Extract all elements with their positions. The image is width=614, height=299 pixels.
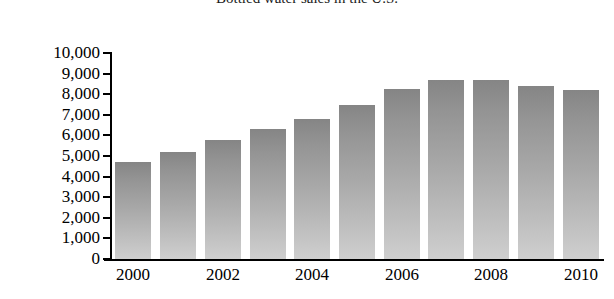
y-axis-tick-mark: [103, 196, 112, 198]
x-axis-tick-label: 2006: [367, 266, 437, 284]
bar-2006: [384, 89, 420, 259]
bar-2004: [294, 119, 330, 259]
y-axis-tick-label: 10,000: [16, 44, 100, 61]
y-axis-tick-mark: [103, 114, 112, 116]
x-axis-tick-label: 2002: [188, 266, 258, 284]
bar-2010: [563, 90, 599, 259]
x-axis-tick-label: 2010: [546, 266, 614, 284]
bar-2000: [115, 162, 151, 259]
y-axis-tick-mark: [103, 176, 112, 178]
x-axis-tick-label: 2004: [277, 266, 347, 284]
y-axis-tick-labels: 10,0009,0008,0007,0006,0005,0004,0003,00…: [12, 0, 100, 299]
y-axis-tick-mark: [103, 155, 112, 157]
y-axis-tick-label: 5,000: [16, 147, 100, 164]
bar-2008: [473, 80, 509, 259]
y-axis-tick-label: 7,000: [16, 106, 100, 123]
x-axis-tick-label: 2000: [98, 266, 168, 284]
y-axis-tick-label: 0: [16, 250, 100, 267]
plot-area: [111, 53, 603, 259]
y-axis-tick-label: 2,000: [16, 209, 100, 226]
y-axis-tick-label: 1,000: [16, 229, 100, 246]
bar-2007: [428, 80, 464, 259]
y-axis-tick-mark: [103, 237, 112, 239]
x-axis-tick-label: 2008: [456, 266, 526, 284]
x-axis-line: [104, 259, 604, 261]
bar-2002: [205, 140, 241, 259]
y-axis-tick-mark: [103, 73, 112, 75]
y-axis-tick-label: 3,000: [16, 188, 100, 205]
y-axis-tick-label: 6,000: [16, 126, 100, 143]
y-axis-tick-label: 9,000: [16, 65, 100, 82]
y-axis-tick-mark: [103, 134, 112, 136]
bar-2005: [339, 105, 375, 260]
bar-2003: [250, 129, 286, 259]
bar-2001: [160, 152, 196, 259]
y-axis-tick-mark: [103, 52, 112, 54]
y-axis-tick-label: 4,000: [16, 168, 100, 185]
y-axis-tick-mark: [103, 217, 112, 219]
y-axis-tick-mark: [103, 93, 112, 95]
bar-chart-figure: Bottled water sales in the U.S. Millions…: [0, 0, 614, 299]
y-axis-tick-label: 8,000: [16, 85, 100, 102]
bar-2009: [518, 86, 554, 259]
y-axis-tick-mark: [103, 258, 112, 260]
